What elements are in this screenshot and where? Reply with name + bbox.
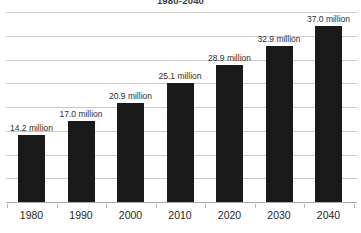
x-axis-tick bbox=[255, 204, 304, 208]
chart-title: 1980-2040 bbox=[0, 0, 361, 4]
bar-group: 32.9 million bbox=[255, 5, 304, 203]
x-axis: 1980199020002010202020302040 bbox=[0, 204, 361, 233]
x-axis-tick bbox=[57, 204, 106, 208]
bar[interactable] bbox=[167, 83, 194, 202]
x-axis-tick bbox=[156, 204, 205, 208]
x-axis-tick bbox=[106, 204, 155, 208]
x-axis-tick bbox=[7, 204, 56, 208]
bar-group: 14.2 million bbox=[7, 5, 56, 203]
bar[interactable] bbox=[18, 135, 45, 202]
bar-chart: 1980-2040 14.2 million17.0 million20.9 m… bbox=[0, 0, 361, 233]
x-axis-label: 1980 bbox=[7, 209, 56, 221]
bar[interactable] bbox=[266, 46, 293, 202]
bar-value-label: 37.0 million bbox=[288, 14, 361, 24]
bar-group: 17.0 million bbox=[57, 5, 106, 203]
x-axis-label: 2010 bbox=[156, 209, 205, 221]
bars-layer: 14.2 million17.0 million20.9 million25.1… bbox=[0, 5, 361, 203]
x-axis-tick bbox=[304, 204, 353, 208]
bar[interactable] bbox=[315, 26, 342, 202]
bar-group: 37.0 million bbox=[304, 5, 353, 203]
x-axis-tick bbox=[354, 204, 361, 208]
plot-area: 14.2 million17.0 million20.9 million25.1… bbox=[0, 5, 361, 203]
bar[interactable] bbox=[216, 65, 243, 202]
x-axis-tick bbox=[205, 204, 254, 208]
x-axis-label: 2030 bbox=[255, 209, 304, 221]
bar[interactable] bbox=[117, 103, 144, 202]
bar-group: 25.1 million bbox=[156, 5, 205, 203]
bar-group: 20.9 million bbox=[106, 5, 155, 203]
bar[interactable] bbox=[68, 121, 95, 202]
x-axis-label: 2040 bbox=[304, 209, 353, 221]
x-axis-label: 2020 bbox=[205, 209, 254, 221]
x-axis-label: 2000 bbox=[106, 209, 155, 221]
x-axis-label: 1990 bbox=[57, 209, 106, 221]
